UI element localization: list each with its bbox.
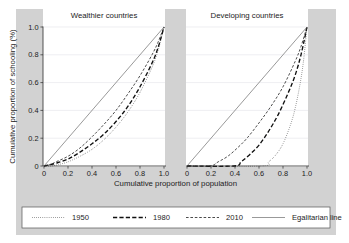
y-tick-label-1: 0.2 — [28, 134, 38, 143]
y-axis-title: Cumulative proportion of schooling (%) — [8, 29, 17, 164]
x-tick-label-wealthier-1: 0.2 — [63, 169, 73, 178]
legend-label-2010: 2010 — [226, 213, 243, 222]
x-tick-label-developing-1: 0.2 — [206, 169, 216, 178]
x-tick-label-developing-5: 1.0 — [302, 169, 312, 178]
x-tick-label-wealthier-4: 0.8 — [135, 169, 145, 178]
panel-background-wealthier — [43, 8, 165, 167]
panel-title-developing: Developing countries — [211, 11, 284, 20]
legend-label-1980: 1980 — [153, 213, 170, 222]
y-tick-label-3: 0.6 — [28, 78, 38, 87]
x-tick-label-wealthier-0: 0 — [42, 169, 46, 178]
chart-figure: Wealthier countriesDeveloping countries0… — [0, 0, 349, 243]
x-tick-label-developing-4: 0.8 — [278, 169, 288, 178]
y-tick-label-4: 0.8 — [28, 50, 38, 59]
panel-background-developing — [186, 8, 308, 167]
x-tick-label-wealthier-5: 1.0 — [159, 169, 169, 178]
x-axis-title: Cumulative proportion of population — [114, 179, 237, 188]
lorenz-curve-chart: Wealthier countriesDeveloping countries0… — [0, 0, 349, 243]
legend-label-egalitarian-line: Egalitarian line — [292, 213, 342, 222]
panel-title-wealthier: Wealthier countries — [71, 11, 138, 20]
x-tick-label-wealthier-3: 0.6 — [111, 169, 121, 178]
y-tick-label-2: 0.4 — [28, 106, 38, 115]
x-tick-label-developing-0: 0 — [185, 169, 189, 178]
y-tick-label-5: 1.0 — [28, 23, 38, 32]
x-tick-label-developing-3: 0.6 — [254, 169, 264, 178]
legend-label-1950: 1950 — [72, 213, 89, 222]
x-tick-label-developing-2: 0.4 — [230, 169, 240, 178]
x-tick-label-wealthier-2: 0.4 — [87, 169, 97, 178]
y-tick-label-0: 0 — [34, 162, 38, 171]
